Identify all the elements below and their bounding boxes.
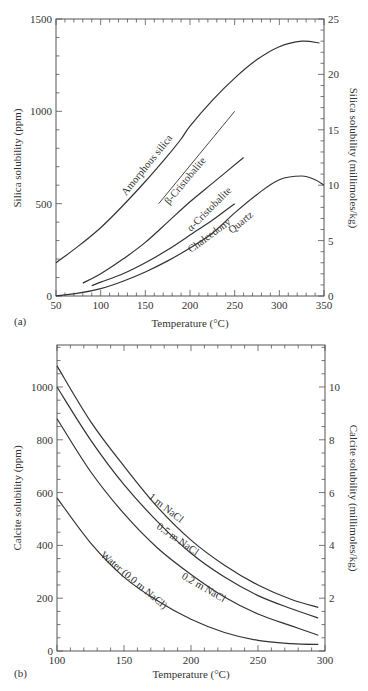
x-tick-labels-b: 100150200250300 <box>49 654 334 666</box>
axis-ticks-b <box>57 345 325 651</box>
y-left-tick-label: 600 <box>37 487 54 499</box>
y-left-axis-title-b: Calcite solubility (ppm) <box>11 445 24 550</box>
y-left-tick-labels-a: 050010001500 <box>30 13 53 302</box>
y-left-tick-label: 400 <box>37 539 54 551</box>
y-right-tick-label: 8 <box>329 434 335 446</box>
y-left-tick-label: 500 <box>36 198 53 210</box>
plot-frame-a <box>56 19 324 296</box>
x-tick-label: 200 <box>182 299 199 311</box>
x-axis-title-b: Temperature (°C) <box>152 668 230 681</box>
y-right-tick-label: 5 <box>328 235 334 247</box>
y-left-tick-label: 1000 <box>31 381 54 393</box>
y-left-tick-label: 800 <box>37 434 54 446</box>
x-tick-label: 50 <box>51 299 63 311</box>
panel-label-a: (a) <box>14 315 27 328</box>
panel-a: 50100150200250300350 050010001500 051015… <box>11 13 360 330</box>
y-left-tick-label: 0 <box>48 645 54 657</box>
y-right-axis-title-a: Silica solubility (millimoles/kg) <box>347 88 360 229</box>
panel-label-b: (b) <box>14 667 27 680</box>
y-right-tick-label: 25 <box>328 13 340 25</box>
label-amorphous-silica: Amorphous silica <box>119 132 175 197</box>
y-right-tick-label: 2 <box>329 592 335 604</box>
y-right-tick-label: 10 <box>328 179 340 191</box>
x-tick-label: 250 <box>226 299 243 311</box>
y-right-tick-label: 15 <box>328 124 340 136</box>
y-left-tick-label: 1000 <box>30 105 53 117</box>
curve-quartz <box>56 176 324 296</box>
x-tick-label: 150 <box>137 299 154 311</box>
x-tick-label: 300 <box>271 299 288 311</box>
y-right-tick-labels-b: 246810 <box>329 381 341 604</box>
y-left-tick-label: 200 <box>37 592 54 604</box>
y-right-tick-label: 10 <box>329 381 341 393</box>
label-beta-cristobalite: β-Cristobalite <box>162 155 208 207</box>
y-right-tick-label: 6 <box>329 487 335 499</box>
label-1m-nacl: 1 m NaCl <box>147 491 186 525</box>
y-left-tick-label: 0 <box>47 290 53 302</box>
x-tick-label: 300 <box>317 654 334 666</box>
curves-b <box>57 366 318 645</box>
x-tick-label: 200 <box>183 654 200 666</box>
x-tick-labels-a: 50100150200250300350 <box>51 299 333 311</box>
label-quartz: Quartz <box>226 209 255 236</box>
x-tick-label: 100 <box>92 299 109 311</box>
y-left-axis-title-a: Silica solubility (ppm) <box>11 108 24 207</box>
label-water: Water (0.0 m NaCl) <box>98 549 170 612</box>
y-right-tick-labels-a: 0510152025 <box>328 13 340 302</box>
x-tick-label: 250 <box>250 654 267 666</box>
y-right-tick-label: 20 <box>328 68 340 80</box>
y-left-tick-label: 1500 <box>30 13 53 25</box>
y-left-tick-labels-b: 02004006008001000 <box>31 381 54 657</box>
y-right-axis-title-b: Calcite solubility (millimoles/kg) <box>347 425 360 572</box>
y-right-tick-label: 4 <box>329 539 335 551</box>
plot-frame-b <box>57 345 325 651</box>
curve-0-2-m-nacl <box>57 419 318 636</box>
panel-b: 100150200250300 02004006008001000 246810… <box>11 345 360 681</box>
figure: 50100150200250300350 050010001500 051015… <box>0 0 368 691</box>
axis-ticks-a <box>56 19 324 296</box>
x-tick-label: 150 <box>116 654 133 666</box>
x-axis-title-a: Temperature (°C) <box>151 317 229 330</box>
y-right-tick-label: 0 <box>328 290 334 302</box>
